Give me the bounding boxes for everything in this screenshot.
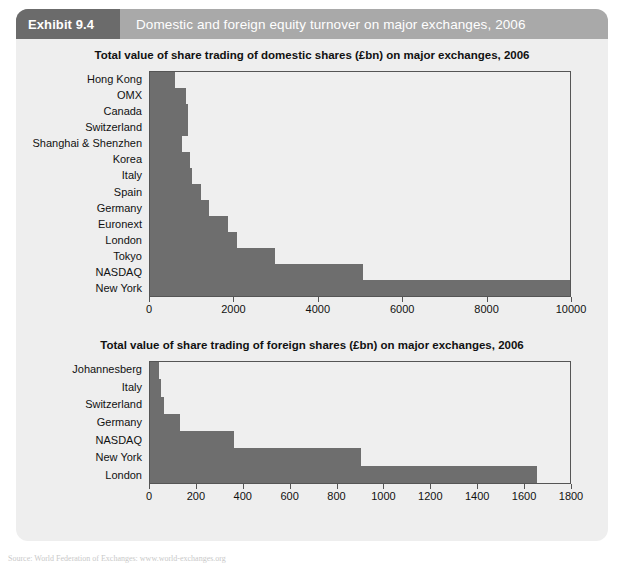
source-note: Source: World Federation of Exchanges: w… (8, 554, 226, 563)
axis-tick-label: 10000 (556, 303, 587, 315)
bar-row (150, 168, 570, 184)
category-label: London (19, 470, 147, 481)
bar-row (150, 88, 570, 104)
axis-tick (149, 484, 150, 489)
bar (150, 168, 192, 184)
axis-tick-label: 8000 (474, 303, 498, 315)
category-label: Germany (19, 417, 147, 428)
bar-row (150, 136, 570, 152)
category-label: Euronext (19, 219, 147, 230)
axis-tick (233, 297, 234, 302)
bar (150, 88, 186, 104)
bar (150, 280, 570, 296)
category-label: Korea (19, 154, 147, 165)
bar (150, 104, 188, 120)
bar (150, 72, 175, 88)
axis-tick (149, 297, 150, 302)
bar (150, 232, 237, 248)
axis-tick (430, 484, 431, 489)
category-label: Shanghai & Shenzhen (19, 138, 147, 149)
exhibit-panel: Exhibit 9.4 Domestic and foreign equity … (16, 9, 608, 541)
axis-tick-label: 1000 (371, 490, 395, 502)
bar (150, 264, 363, 280)
bar (150, 136, 182, 152)
bar-row (150, 448, 570, 465)
axis-tick (318, 297, 319, 302)
axis-tick-label: 0 (146, 303, 152, 315)
axis-tick-label: 1200 (418, 490, 442, 502)
bar-row (150, 248, 570, 264)
chart-1-bars (150, 72, 570, 296)
chart-2-plot-area (149, 361, 571, 484)
axis-tick (402, 297, 403, 302)
bar-row (150, 379, 570, 396)
bar-row (150, 200, 570, 216)
chart-2-category-labels: JohannesbergItalySwitzerlandGermanyNASDA… (19, 361, 147, 484)
axis-tick-label: 600 (280, 490, 298, 502)
category-label: Switzerland (19, 122, 147, 133)
category-label: New York (19, 283, 147, 294)
axis-tick (487, 297, 488, 302)
chart-2-bars (150, 362, 570, 483)
bar (150, 431, 234, 448)
bar (150, 216, 228, 232)
chart-1-title: Total value of share trading of domestic… (16, 49, 608, 61)
axis-tick-label: 1600 (512, 490, 536, 502)
axis-tick-label: 400 (234, 490, 252, 502)
bar (150, 362, 159, 379)
bar-row (150, 362, 570, 379)
bar-row (150, 152, 570, 168)
category-label: Italy (19, 170, 147, 181)
bar-row (150, 120, 570, 136)
bar (150, 379, 161, 396)
axis-tick-label: 2000 (221, 303, 245, 315)
exhibit-number-tag: Exhibit 9.4 (16, 9, 120, 39)
category-label: Germany (19, 203, 147, 214)
bar-row (150, 431, 570, 448)
chart-foreign-shares: Total value of share trading of foreign … (16, 339, 608, 529)
axis-tick-label: 6000 (390, 303, 414, 315)
bar (150, 466, 537, 483)
bar (150, 248, 275, 264)
axis-tick-label: 1800 (559, 490, 583, 502)
bar-row (150, 232, 570, 248)
category-label: Switzerland (19, 399, 147, 410)
bar (150, 448, 361, 465)
axis-tick (337, 484, 338, 489)
axis-tick-label: 0 (146, 490, 152, 502)
category-label: Canada (19, 106, 147, 117)
bar-row (150, 72, 570, 88)
category-label: Italy (19, 382, 147, 393)
bar (150, 397, 164, 414)
chart-1-category-labels: Hong KongOMXCanadaSwitzerlandShanghai & … (19, 71, 147, 297)
axis-tick-label: 800 (327, 490, 345, 502)
category-label: London (19, 235, 147, 246)
axis-tick (571, 484, 572, 489)
bar (150, 120, 188, 136)
bar (150, 184, 201, 200)
bar-row (150, 104, 570, 120)
axis-tick (196, 484, 197, 489)
category-label: Tokyo (19, 251, 147, 262)
category-label: NASDAQ (19, 435, 147, 446)
category-label: OMX (19, 90, 147, 101)
category-label: Johannesberg (19, 364, 147, 375)
bar (150, 414, 180, 431)
bar (150, 152, 190, 168)
bar-row (150, 414, 570, 431)
category-label: New York (19, 452, 147, 463)
bar (150, 200, 209, 216)
axis-tick-label: 4000 (306, 303, 330, 315)
exhibit-caption: Domestic and foreign equity turnover on … (136, 9, 526, 39)
axis-tick (524, 484, 525, 489)
chart-1-plot-area (149, 71, 571, 297)
exhibit-header-band: Exhibit 9.4 Domestic and foreign equity … (16, 9, 608, 39)
category-label: NASDAQ (19, 267, 147, 278)
chart-domestic-shares: Total value of share trading of domestic… (16, 49, 608, 329)
axis-tick (243, 484, 244, 489)
bar-row (150, 466, 570, 483)
axis-tick (477, 484, 478, 489)
chart-2-title: Total value of share trading of foreign … (16, 339, 608, 351)
category-label: Spain (19, 187, 147, 198)
axis-tick-label: 1400 (465, 490, 489, 502)
